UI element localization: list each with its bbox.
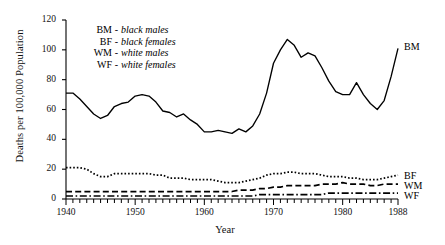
y-axis-ticks (62, 20, 66, 199)
x-tick-label: 1988 (378, 207, 418, 217)
y-tick-label: 20 (28, 163, 56, 173)
x-tick-label: 1940 (46, 207, 86, 217)
y-tick-label: 40 (28, 133, 56, 143)
legend-dash: - (112, 59, 121, 71)
y-tick-label: 0 (28, 193, 56, 203)
y-tick-label: 60 (28, 104, 56, 114)
series-line-wf (66, 193, 398, 196)
legend-code: BM (86, 24, 112, 36)
x-tick-label: 1980 (323, 207, 363, 217)
legend-dash: - (112, 36, 121, 48)
legend-label: white females (121, 59, 176, 71)
y-tick-label: 80 (28, 74, 56, 84)
legend-code: BF (86, 36, 112, 48)
legend-item: BM - black males (86, 24, 176, 36)
y-tick-label: 100 (28, 44, 56, 54)
x-axis-minor-ticks (66, 199, 398, 205)
legend-item: BF - black females (86, 36, 176, 48)
legend-item: WM - white males (86, 47, 176, 59)
series-line-bf (66, 168, 398, 183)
chart-figure: Deaths per 100,000 Population Year 02040… (0, 0, 445, 245)
legend-item: WF - white females (86, 59, 176, 71)
legend-label: white males (121, 47, 169, 59)
x-tick-label: 1960 (184, 207, 224, 217)
x-tick-label: 1950 (115, 207, 155, 217)
series-end-label-wf: WF (404, 190, 419, 201)
series-line-wm (66, 183, 398, 192)
chart-legend: BM - black males BF - black females WM -… (86, 24, 176, 70)
legend-label: black males (121, 24, 169, 36)
x-tick-label: 1970 (254, 207, 294, 217)
legend-code: WM (86, 47, 112, 59)
legend-label: black females (121, 36, 176, 48)
x-axis-title: Year (180, 224, 270, 235)
legend-dash: - (112, 47, 121, 59)
y-tick-label: 120 (28, 14, 56, 24)
legend-code: WF (86, 59, 112, 71)
legend-dash: - (112, 24, 121, 36)
series-end-label-bm: BM (404, 41, 420, 52)
